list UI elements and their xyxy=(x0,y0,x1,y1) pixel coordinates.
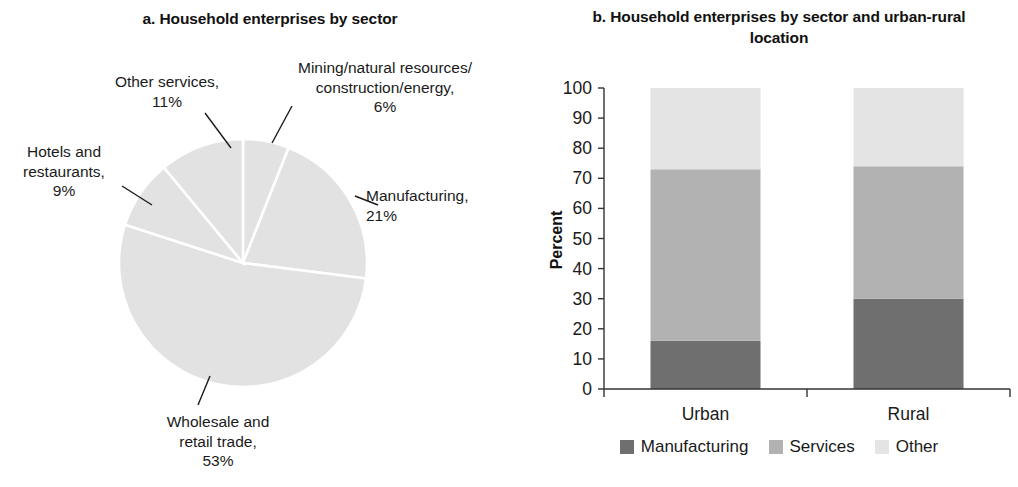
bar-segment-rural-services xyxy=(854,166,964,298)
legend-label: Other xyxy=(896,437,939,457)
legend-swatch-services-icon xyxy=(769,440,783,454)
y-axis-title: Percent xyxy=(548,210,565,269)
y-axis-tick-label: 40 xyxy=(573,259,593,279)
legend-item-other: Other xyxy=(875,437,939,457)
x-axis-label-urban: Urban xyxy=(682,404,730,424)
bar-segment-rural-other xyxy=(854,88,964,166)
x-axis: UrbanRural xyxy=(604,389,1010,424)
legend-label: Services xyxy=(790,437,855,457)
y-axis-tick-label: 20 xyxy=(573,319,593,339)
bar-segment-urban-services xyxy=(651,169,761,341)
legend-item-manufacturing: Manufacturing xyxy=(620,437,749,457)
pie-label-wholesale: Wholesale and retail trade, 53% xyxy=(128,412,308,471)
pie-label-hotels: Hotels and restaurants, 9% xyxy=(2,142,126,201)
panel-b-bar-chart: b. Household enterprises by sector and u… xyxy=(540,0,1018,487)
panel-a-pie-chart: a. Household enterprises by sector Other… xyxy=(0,0,540,487)
legend-swatch-other-icon xyxy=(875,440,889,454)
bar-segment-rural-manufacturing xyxy=(854,299,964,389)
y-axis-tick-label: 0 xyxy=(582,379,592,399)
y-axis-tick-label: 70 xyxy=(573,168,593,188)
bar-segment-urban-manufacturing xyxy=(651,341,761,389)
legend-item-services: Services xyxy=(769,437,855,457)
y-axis-tick-label: 80 xyxy=(573,138,593,158)
y-axis-tick-label: 50 xyxy=(573,229,593,249)
pie-chart-figure: Other services, 11% Mining/natural resou… xyxy=(0,0,540,487)
legend-swatch-manufacturing-icon xyxy=(620,440,634,454)
y-axis-tick-label: 10 xyxy=(573,349,593,369)
y-axis-tick-label: 90 xyxy=(573,108,593,128)
legend-label: Manufacturing xyxy=(641,437,749,457)
x-axis-label-rural: Rural xyxy=(888,404,930,424)
bar-segment-urban-other xyxy=(651,88,761,169)
bar-chart-svg: 0102030405060708090100 UrbanRural Percen… xyxy=(540,0,1018,487)
bar-series-group xyxy=(651,88,964,389)
y-axis-tick-label: 60 xyxy=(573,198,593,218)
pie-label-manufacturing: Manufacturing, 21% xyxy=(366,186,532,225)
y-axis-tick-label: 100 xyxy=(563,78,592,98)
bar-chart-legend: ManufacturingServicesOther xyxy=(540,437,1018,457)
y-axis: 0102030405060708090100 xyxy=(563,78,604,399)
pie-slice-group xyxy=(119,139,367,387)
pie-label-other-services: Other services, 11% xyxy=(96,72,238,111)
pie-label-mining: Mining/natural resources/ construction/e… xyxy=(262,58,508,117)
y-axis-tick-label: 30 xyxy=(573,289,593,309)
